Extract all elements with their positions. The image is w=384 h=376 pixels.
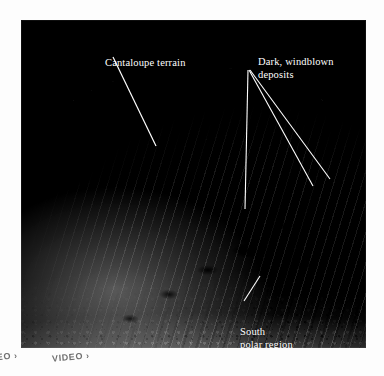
page-canvas: Cantaloupe terrain Dark, windblown depos…: [0, 0, 384, 376]
video-link-1[interactable]: VIDEO ›: [0, 352, 18, 364]
bottom-video-strip: VIDEO › VIDEO ›: [0, 352, 384, 376]
callout-label-dark-windblown-deposits: Dark, windblown deposits: [258, 56, 334, 81]
video-link-2[interactable]: VIDEO ›: [52, 352, 90, 364]
triton-photograph[interactable]: Cantaloupe terrain Dark, windblown depos…: [21, 20, 366, 348]
callout-label-south-polar-region: South polar region: [240, 326, 293, 348]
callout-label-cantaloupe-terrain: Cantaloupe terrain: [105, 57, 186, 70]
